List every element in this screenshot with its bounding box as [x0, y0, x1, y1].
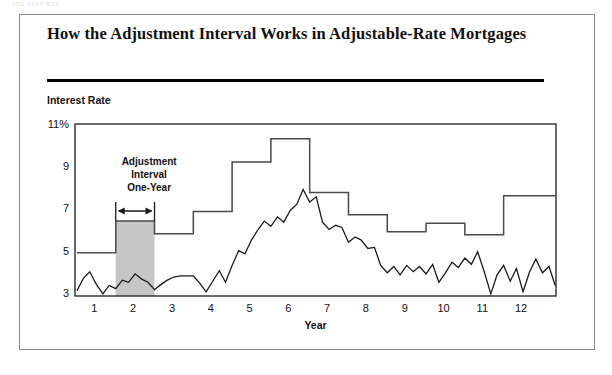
annotation-line: One-Year	[127, 182, 171, 193]
chart-area: 357911%123456789101112YearAdjustmentInte…	[0, 0, 612, 375]
x-tick-label: 2	[130, 302, 136, 314]
x-tick-label: 8	[363, 302, 369, 314]
annotation-line: Interval	[131, 169, 167, 180]
x-tick-label: 11	[477, 302, 488, 314]
y-tick-label: 7	[63, 202, 69, 214]
x-tick-label: 6	[285, 302, 291, 314]
x-tick-label: 10	[437, 302, 449, 314]
y-tick-label: 3	[63, 287, 69, 299]
arrow-head-right-icon	[146, 207, 153, 214]
y-tick-label: 5	[63, 245, 69, 257]
x-tick-label: 4	[208, 302, 214, 314]
adjustment-interval-highlight-band	[116, 221, 155, 296]
x-tick-label: 12	[515, 302, 527, 314]
interest-rate-chart: 357911%123456789101112YearAdjustmentInte…	[0, 0, 612, 375]
x-tick-label: 9	[402, 302, 408, 314]
page-root: THE FACT BOX How the Adjustment Interval…	[0, 0, 612, 375]
arrow-head-left-icon	[118, 207, 125, 214]
x-axis-title: Year	[304, 319, 326, 331]
y-tick-label: 11%	[48, 118, 69, 130]
x-tick-label: 7	[324, 302, 330, 314]
annotation-line: Adjustment	[122, 156, 178, 167]
x-tick-label: 3	[169, 302, 175, 314]
x-tick-label: 1	[91, 302, 97, 314]
y-tick-label: 9	[63, 160, 69, 172]
x-tick-label: 5	[246, 302, 252, 314]
